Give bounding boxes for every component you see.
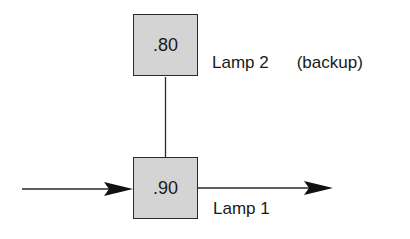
lamp2-note: (backup)	[297, 53, 363, 72]
lamp1-block: .90	[133, 157, 198, 219]
lamp2-name: Lamp 2	[212, 53, 269, 72]
lamp2-block: .80	[133, 14, 198, 76]
input-arrow	[22, 182, 133, 196]
lamp1-label: Lamp 1	[213, 199, 270, 219]
lamp2-reliability: .80	[153, 35, 178, 56]
lamp2-label: Lamp 2(backup)	[212, 53, 363, 73]
lamp1-name: Lamp 1	[213, 199, 270, 218]
lamp1-reliability: .90	[153, 178, 178, 199]
output-arrow	[198, 181, 333, 195]
diagram-canvas: .80 Lamp 2(backup) .90 Lamp 1	[0, 0, 410, 239]
connectors	[0, 0, 410, 239]
